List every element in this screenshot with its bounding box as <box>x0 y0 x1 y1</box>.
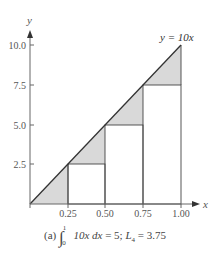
rectangle-4 <box>143 85 181 204</box>
x-axis-label: x <box>202 198 208 210</box>
integral-upper-limit: 1 <box>63 224 67 232</box>
integral-lower-limit: 0 <box>62 239 66 247</box>
riemann-sum-chart: y x 10.0 7.5 5.0 2.5 0.25 0.50 0.75 1.00… <box>0 0 214 263</box>
y-tick-label: 2.5 <box>14 159 27 170</box>
y-tick-label: 5.0 <box>14 120 27 131</box>
y-tick-label: 7.5 <box>14 80 27 91</box>
caption-prefix: (a) <box>44 229 56 241</box>
integrand: 10x dx <box>73 229 102 241</box>
sum-value: = 3.75 <box>135 229 166 241</box>
x-tick-label: 0.25 <box>59 208 77 219</box>
x-tick-label: 0.50 <box>96 208 114 219</box>
x-tick-label: 0.75 <box>134 208 152 219</box>
function-line <box>30 45 181 204</box>
y-axis-label: y <box>26 14 32 26</box>
x-tick-label: 1.00 <box>172 208 190 219</box>
y-axis-arrow-icon <box>27 30 33 38</box>
figure-caption: (a) ∫10 10x dx = 5; L4 = 3.75 <box>44 228 166 248</box>
rectangle-3 <box>105 125 143 204</box>
x-axis-arrow-icon <box>192 201 200 207</box>
integral-result: = 5; <box>105 229 125 241</box>
curve-label: y = 10x <box>159 31 194 43</box>
rectangle-2 <box>68 164 105 204</box>
y-tick-label: 10.0 <box>9 40 27 51</box>
